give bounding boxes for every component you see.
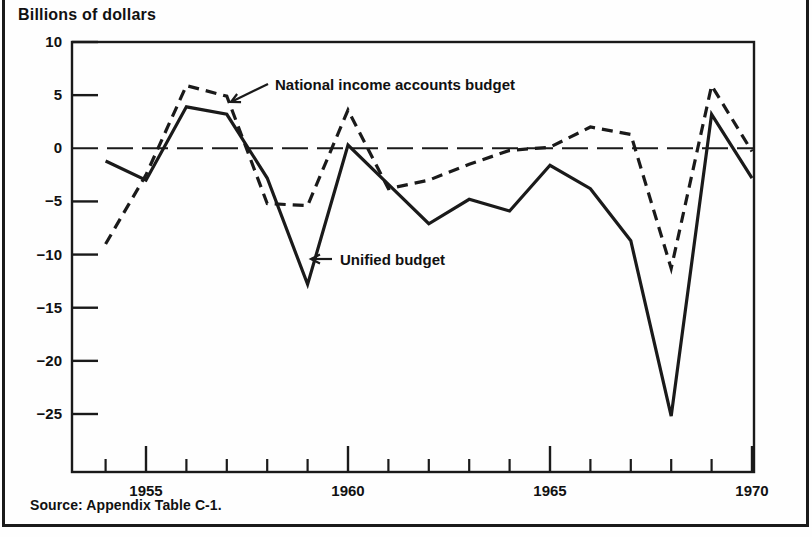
y-tick-label: 0	[54, 139, 62, 156]
source-note: Source: Appendix Table C-1.	[30, 497, 222, 513]
x-tick-label-1970: 1970	[735, 482, 768, 499]
y-tick-label: 5	[54, 86, 62, 103]
annotation-label: National income accounts budget	[275, 76, 515, 93]
annotation-label: Unified budget	[340, 251, 445, 268]
y-tick-label: 10	[45, 33, 62, 50]
budget-deficit-line-chart: 1050−5−10−15−20−25 National income accou…	[0, 0, 812, 537]
y-tick-label: −15	[37, 299, 62, 316]
y-tick-label: −5	[45, 192, 62, 209]
x-axis-ticks	[106, 446, 752, 472]
y-axis-ticks: 1050−5−10−15−20−25	[37, 33, 98, 422]
y-tick-label: −25	[37, 405, 62, 422]
x-tick-label-1960: 1960	[331, 482, 364, 499]
annotation-arrow-line	[231, 84, 268, 102]
x-tick-label-1965: 1965	[533, 482, 566, 499]
y-tick-label: −20	[37, 352, 62, 369]
chart-page: Billions of dollars 1050−5−10−15−20−25 N…	[0, 0, 812, 537]
x-axis-labels: 1955196019651970	[129, 482, 768, 499]
y-tick-label: −10	[37, 246, 62, 263]
annotations-group: National income accounts budgetUnified b…	[231, 76, 515, 268]
series-national-income-accounts-budget	[106, 86, 752, 269]
